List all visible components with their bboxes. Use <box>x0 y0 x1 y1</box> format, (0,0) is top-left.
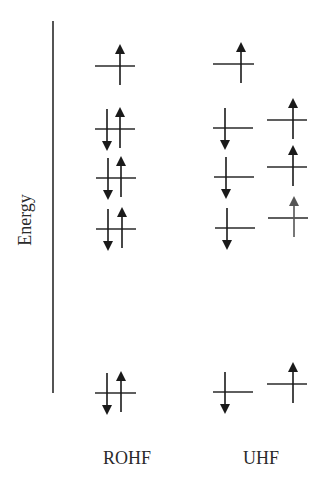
orbital-level <box>215 208 255 250</box>
orbital-level <box>213 108 253 150</box>
orbital-level <box>267 98 307 139</box>
spin-down-arrow-icon <box>103 158 113 200</box>
orbital-level <box>268 196 308 237</box>
orbital-level <box>267 362 307 403</box>
orbital-level <box>95 371 136 415</box>
orbital-level <box>96 156 136 200</box>
spin-down-arrow-icon <box>222 208 232 250</box>
spin-down-arrow-icon <box>221 157 231 199</box>
rohf-column-label: ROHF <box>103 448 151 469</box>
orbital-level <box>213 42 254 83</box>
spin-down-arrow-icon <box>220 372 230 414</box>
spin-up-arrow-icon <box>115 107 125 148</box>
spin-up-arrow-icon <box>288 145 298 186</box>
orbital-energy-diagram <box>0 0 326 495</box>
orbital-level <box>267 145 307 186</box>
spin-down-arrow-icon <box>102 373 112 415</box>
orbital-level <box>214 157 254 199</box>
spin-up-arrow-icon <box>289 196 299 237</box>
spin-up-arrow-icon <box>115 44 125 85</box>
orbital-level <box>96 207 136 251</box>
orbital-level <box>213 372 253 414</box>
spin-down-arrow-icon <box>103 209 113 251</box>
spin-up-arrow-icon <box>117 207 127 248</box>
spin-up-arrow-icon <box>288 98 298 139</box>
spin-up-arrow-icon <box>116 371 126 412</box>
orbital-level <box>95 107 135 151</box>
spin-down-arrow-icon <box>220 108 230 150</box>
spin-up-arrow-icon <box>236 42 246 83</box>
orbital-level <box>95 44 135 85</box>
spin-up-arrow-icon <box>288 362 298 403</box>
uhf-column-label: UHF <box>243 448 279 469</box>
energy-axis-label: Energy <box>15 194 36 246</box>
spin-down-arrow-icon <box>102 109 112 151</box>
orbital-levels <box>95 42 308 415</box>
spin-up-arrow-icon <box>116 156 126 197</box>
